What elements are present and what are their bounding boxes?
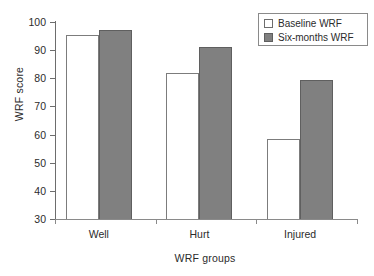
bar-injured-baseline bbox=[267, 139, 300, 219]
legend: Baseline WRF Six-months WRF bbox=[258, 13, 368, 46]
y-tick-label-70: 70 bbox=[0, 100, 46, 112]
y-tick-label-60: 60 bbox=[0, 129, 46, 141]
y-tick-label-40: 40 bbox=[0, 185, 46, 197]
bar-hurt-baseline bbox=[166, 73, 199, 219]
bar-chart-figure: WRF score 30405060708090100 WellHurtInju… bbox=[0, 0, 374, 276]
bar-well-sixmonths bbox=[99, 30, 132, 219]
y-tick-label-90: 90 bbox=[0, 44, 46, 56]
bar-hurt-sixmonths bbox=[199, 47, 232, 219]
y-tick-40 bbox=[50, 191, 55, 192]
legend-label-sixmonths: Six-months WRF bbox=[278, 32, 354, 43]
legend-item-sixmonths: Six-months WRF bbox=[264, 31, 363, 44]
bar-well-baseline bbox=[66, 35, 99, 219]
y-tick-90 bbox=[50, 50, 55, 51]
y-tick-label-80: 80 bbox=[0, 72, 46, 84]
y-tick-label-30: 30 bbox=[0, 213, 46, 225]
legend-label-baseline: Baseline WRF bbox=[278, 18, 342, 29]
x-tick-label-hurt: Hurt bbox=[154, 228, 244, 240]
y-axis-line bbox=[55, 21, 56, 220]
x-axis-title: WRF groups bbox=[55, 252, 355, 264]
y-tick-70 bbox=[50, 106, 55, 107]
y-tick-label-50: 50 bbox=[0, 157, 46, 169]
legend-item-baseline: Baseline WRF bbox=[264, 17, 363, 30]
x-tick-well bbox=[55, 219, 56, 224]
y-tick-100 bbox=[50, 22, 55, 23]
x-axis-line bbox=[55, 219, 357, 220]
x-tick-label-injured: Injured bbox=[255, 228, 345, 240]
y-tick-label-100: 100 bbox=[0, 16, 46, 28]
x-tick-injured bbox=[256, 219, 257, 224]
white-square-icon bbox=[264, 19, 273, 28]
x-tick-end bbox=[357, 219, 358, 224]
y-tick-80 bbox=[50, 78, 55, 79]
y-tick-50 bbox=[50, 163, 55, 164]
gray-square-icon bbox=[264, 33, 273, 42]
y-tick-60 bbox=[50, 135, 55, 136]
x-tick-hurt bbox=[156, 219, 157, 224]
x-tick-label-well: Well bbox=[54, 228, 144, 240]
bar-injured-sixmonths bbox=[300, 80, 333, 219]
